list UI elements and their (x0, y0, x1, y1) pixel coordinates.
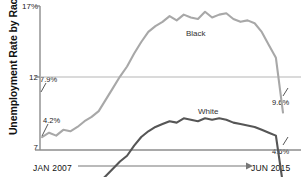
unemployment-rate-chart: Unemployment Rate by Race 17% 12 7 JAN 2… (0, 0, 301, 177)
series-line-black (42, 12, 283, 137)
leader-lines (41, 83, 288, 145)
chart-plot-area (0, 0, 301, 177)
x-axis-arrow-left (78, 163, 253, 170)
